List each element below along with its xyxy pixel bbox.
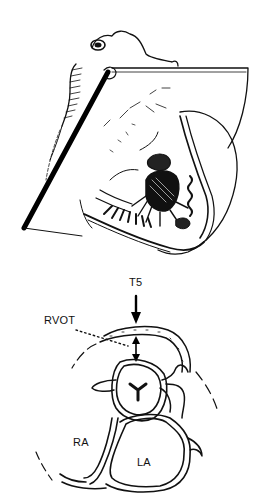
cross-section-schematic: T5 RVOT RA LA bbox=[0, 262, 266, 502]
cross-section-drawing bbox=[0, 262, 266, 502]
heart-specimen-illustration bbox=[0, 0, 266, 262]
label-t5: T5 bbox=[129, 276, 142, 288]
label-la: LA bbox=[137, 456, 151, 468]
label-ra: RA bbox=[73, 436, 89, 448]
label-rvot: RVOT bbox=[44, 314, 75, 326]
heart-drawing bbox=[0, 0, 266, 262]
